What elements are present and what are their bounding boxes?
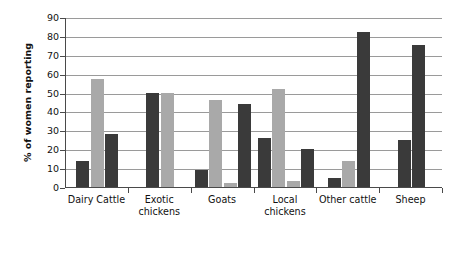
x-axis-tick-mark <box>379 188 380 193</box>
x-axis-category-label-line: Local <box>254 194 317 206</box>
bar <box>209 100 222 187</box>
bar <box>76 161 89 187</box>
y-axis-tick-label: 70 <box>33 51 59 61</box>
y-axis-tick-label: 10 <box>33 164 59 174</box>
x-axis-category-label: Goats <box>191 194 254 206</box>
bar <box>258 138 271 187</box>
bar <box>301 149 314 187</box>
bar <box>91 79 104 187</box>
bar <box>342 161 355 187</box>
y-axis-tick-label: 50 <box>33 89 59 99</box>
x-axis-category-label-line: Dairy Cattle <box>65 194 128 206</box>
y-axis-tick-label: 80 <box>33 32 59 42</box>
y-axis-tick-mark <box>60 188 65 189</box>
x-axis-category-label: Dairy Cattle <box>65 194 128 206</box>
x-axis-tick-mark <box>442 188 443 193</box>
bar <box>412 45 425 187</box>
bar-chart: % of women reporting 0102030405060708090… <box>0 0 454 257</box>
bar-group <box>317 17 380 187</box>
y-axis-tick-label: 90 <box>33 13 59 23</box>
bar <box>195 170 208 187</box>
y-axis-tick-label: 40 <box>33 107 59 117</box>
bar <box>105 134 118 187</box>
y-axis-title: % of women reporting <box>22 18 33 188</box>
y-axis-tick-label: 60 <box>33 70 59 80</box>
x-axis-category-label-line: Other cattle <box>316 194 379 206</box>
bar <box>328 178 341 187</box>
bar-group <box>192 17 255 187</box>
y-axis-tick-label: 20 <box>33 145 59 155</box>
x-axis-category-label: Other cattle <box>316 194 379 206</box>
bar <box>146 93 159 187</box>
bar <box>161 93 174 187</box>
y-axis-tick-label: 0 <box>33 183 59 193</box>
y-axis-tick-label: 30 <box>33 126 59 136</box>
bar-group <box>255 17 318 187</box>
x-axis-category-label-line: chickens <box>254 206 317 218</box>
x-axis-category-label: Exoticchickens <box>128 194 191 217</box>
bar-group <box>380 17 443 187</box>
bar <box>357 32 370 187</box>
x-axis-tick-mark <box>254 188 255 193</box>
bar-group <box>129 17 192 187</box>
bar <box>272 89 285 187</box>
x-axis-category-label-line: Sheep <box>379 194 442 206</box>
plot-area <box>65 18 442 188</box>
x-axis-category-label-line: Goats <box>191 194 254 206</box>
bar <box>224 183 237 187</box>
x-axis-tick-mark <box>191 188 192 193</box>
x-axis-tick-mark <box>128 188 129 193</box>
x-axis-category-label-line: chickens <box>128 206 191 218</box>
x-axis-tick-mark <box>316 188 317 193</box>
x-axis-category-label: Localchickens <box>254 194 317 217</box>
bar-group <box>66 17 129 187</box>
bar <box>287 181 300 187</box>
x-axis-category-label: Sheep <box>379 194 442 206</box>
bar <box>398 140 411 187</box>
bar <box>238 104 251 187</box>
x-axis-category-label-line: Exotic <box>128 194 191 206</box>
